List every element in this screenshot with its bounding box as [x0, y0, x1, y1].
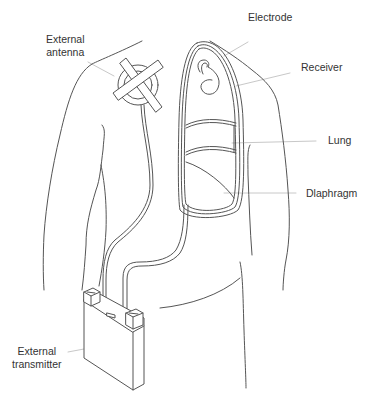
- external-antenna: [113, 58, 163, 112]
- label-line: transmitter: [12, 358, 62, 371]
- label-line: antenna: [46, 46, 85, 59]
- lung-outline: [178, 42, 243, 218]
- label-receiver: Receiver: [301, 61, 342, 74]
- label-line: External: [46, 33, 85, 46]
- label-external-antenna: External antenna: [46, 33, 85, 59]
- antenna-wire: [103, 105, 153, 320]
- label-lung: Lung: [328, 134, 351, 147]
- left-arm-outline: [43, 41, 142, 290]
- label-diaphragm: Dlaphragm: [306, 187, 357, 200]
- transmitter-wire: [123, 205, 188, 320]
- right-torso-outline: [160, 41, 289, 388]
- label-electrode: Electrode: [248, 11, 292, 24]
- diagram-canvas: External antenna Electrode Receiver Lung…: [0, 0, 370, 404]
- label-external-transmitter: External transmitter: [12, 345, 62, 371]
- label-line: External: [12, 345, 62, 358]
- external-transmitter: [84, 288, 144, 390]
- receiver-coil: [198, 60, 219, 94]
